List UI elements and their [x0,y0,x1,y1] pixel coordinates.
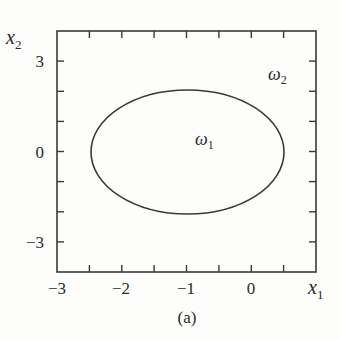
x-tick-label-neg2: −2 [112,279,130,298]
omega1-symbol: ω [195,129,208,149]
y-axis-label: x2 [5,26,21,52]
decision-boundary-ellipse [91,90,284,214]
y-axis-ticks-left [57,61,64,242]
y-axis-label-sub: 2 [15,37,22,52]
x-axis-label-var: x [307,276,317,298]
figure-caption: (a) [178,308,197,327]
x-tick-label-neg1: −1 [177,279,195,298]
y-tick-label-neg3: −3 [26,233,44,252]
omega2-subscript: 2 [281,73,287,87]
decision-boundary-plot: 3 0 −3 x2 −3 −2 −1 0 x1 ω1 ω2 (a) [0,0,340,339]
y-tick-label-3: 3 [36,52,45,71]
y-axis-ticks-right [309,61,316,242]
figure: 3 0 −3 x2 −3 −2 −1 0 x1 ω1 ω2 (a) [0,0,340,339]
region-label-omega1: ω1 [195,129,214,152]
x-axis-ticks-top [89,31,283,38]
omega1-subscript: 1 [208,138,214,152]
x-tick-label-0: 0 [247,279,256,298]
x-axis-label: x1 [307,276,323,302]
y-axis-label-var: x [5,26,15,48]
x-tick-label-neg3: −3 [48,279,66,298]
y-tick-label-0: 0 [36,143,45,162]
omega2-symbol: ω [268,64,281,84]
x-axis-label-sub: 1 [317,287,324,302]
region-label-omega2: ω2 [268,64,287,87]
x-axis-ticks-bottom [89,265,283,272]
